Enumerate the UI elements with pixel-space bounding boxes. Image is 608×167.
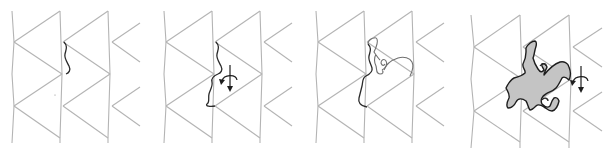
dot-mark	[54, 94, 55, 95]
panel-step-4	[456, 0, 608, 167]
rotated-edge-curve	[207, 74, 218, 106]
panel-step-1	[0, 0, 152, 167]
triangular-grid	[12, 11, 140, 143]
panel-step-2	[152, 0, 304, 167]
tessellation-grid	[456, 0, 608, 167]
horseman-tile	[506, 41, 571, 111]
edge-curve	[64, 42, 70, 74]
tessellation-grid	[304, 0, 456, 167]
tessellation-grid	[0, 0, 152, 167]
horse-head-curve	[384, 57, 413, 76]
triangular-grid	[316, 11, 444, 143]
rotation-arrow-icon	[570, 66, 588, 93]
edge-curve	[216, 42, 222, 74]
panel-step-3	[304, 0, 456, 167]
tessellation-grid	[152, 0, 304, 167]
triangular-grid	[164, 11, 292, 143]
